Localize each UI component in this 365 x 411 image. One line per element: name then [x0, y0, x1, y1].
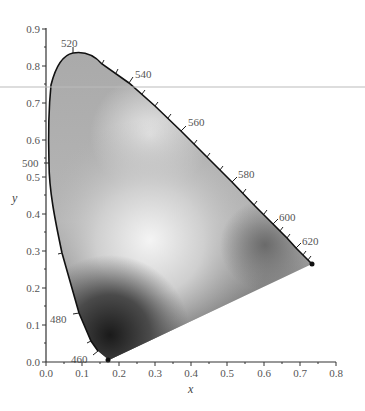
wavelength-label-580: 580: [238, 168, 255, 180]
y-tick-label: 0.4: [26, 208, 40, 220]
wavelength-label-460: 460: [71, 353, 88, 365]
red-end-marker: [310, 262, 315, 267]
x-tick-label: 0.5: [220, 367, 234, 379]
x-tick-label: 0.3: [148, 367, 162, 379]
y-axis-title: y: [11, 191, 18, 205]
wavelength-label-600: 600: [279, 211, 296, 223]
wavelength-label-520: 520: [61, 37, 78, 49]
y-tick-label: 0.3: [26, 245, 40, 257]
x-tick-label: 0.0: [39, 367, 53, 379]
wavelength-label-560: 560: [188, 116, 205, 128]
wavelength-label-480: 480: [50, 313, 67, 325]
gamut-fill: [40, 40, 330, 370]
y-tick-label: 0.9: [26, 23, 40, 35]
y-tick-labels: 0.0 0.1 0.2 0.3 0.4 0.5 0.6 0.7 0.8 0.9: [26, 23, 40, 368]
wavelength-label-620: 620: [302, 235, 319, 247]
x-tick-labels: 0.0 0.1 0.2 0.3 0.4 0.5 0.6 0.7 0.8: [39, 367, 343, 379]
y-tick-label: 0.1: [26, 319, 40, 331]
wavelength-label-500: 500: [22, 157, 39, 169]
x-tick-label: 0.2: [112, 367, 126, 379]
y-tick-label: 0.8: [26, 60, 40, 72]
y-tick-label: 0.2: [26, 282, 40, 294]
y-tick-label: 0.7: [26, 97, 40, 109]
x-tick-label: 0.6: [257, 367, 271, 379]
x-axis-title: x: [187, 382, 194, 396]
y-tick-label: 0.0: [26, 356, 40, 368]
wavelength-label-540: 540: [135, 68, 152, 80]
x-tick-label: 0.8: [329, 367, 343, 379]
y-tick-label: 0.6: [26, 134, 40, 146]
x-tick-label: 0.4: [184, 367, 198, 379]
x-tick-label: 0.1: [75, 367, 89, 379]
cie-chromaticity-chart: 520 540 560 580 600 620 500 480 460 0.: [0, 0, 365, 411]
x-tick-label: 0.7: [293, 367, 307, 379]
y-tick-label: 0.5: [26, 171, 40, 183]
